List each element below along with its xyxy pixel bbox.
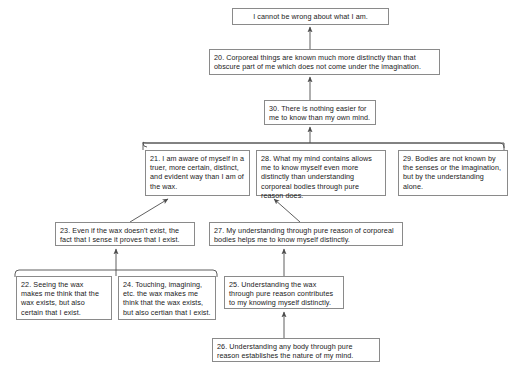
edge-23-to-21 xyxy=(130,199,168,222)
node-conclusion[interactable]: I cannot be wrong about what I am. xyxy=(232,8,389,25)
node-30[interactable]: 30. There is nothing easier for me to kn… xyxy=(264,100,376,125)
edge-27-to-28 xyxy=(274,199,300,222)
node-25[interactable]: 25. Understanding the wax through pure r… xyxy=(224,276,344,309)
node-24[interactable]: 24. Touching, imagining, etc. the wax ma… xyxy=(118,276,216,320)
node-20[interactable]: 20. Corporeal things are known much more… xyxy=(209,49,440,75)
argument-map-diagram: I cannot be wrong about what I am. 20. C… xyxy=(0,0,526,377)
grouping-bracket-upper xyxy=(143,142,504,148)
node-29[interactable]: 29. Bodies are not known by the senses o… xyxy=(398,150,508,196)
node-21[interactable]: 21. I am aware of myself in a truer, mor… xyxy=(145,150,250,196)
node-23[interactable]: 23. Even if the wax doesn't exist, the f… xyxy=(55,222,195,246)
node-27[interactable]: 27. My understanding through pure reason… xyxy=(209,222,403,246)
node-28[interactable]: 28. What my mind contains allows me to k… xyxy=(256,150,386,196)
node-22[interactable]: 22. Seeing the wax makes me think that t… xyxy=(16,276,112,320)
node-26[interactable]: 26. Understanding any body through pure … xyxy=(212,338,380,362)
